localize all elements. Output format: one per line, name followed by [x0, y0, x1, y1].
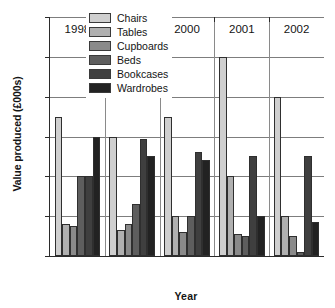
x-axis-tick-label: 2002 [267, 23, 327, 35]
legend-item-cupboards: Cupboards [89, 39, 168, 53]
x-axis-title: Year [49, 290, 323, 302]
legend-label: Bookcases [117, 69, 168, 80]
legend-label: Cupboards [117, 41, 168, 52]
legend-label: Beds [117, 55, 141, 66]
bar-chart: Value produced (£000s) 19981999200020012… [0, 0, 335, 308]
bar [219, 57, 227, 256]
legend-swatch-icon [89, 69, 111, 79]
bar [70, 226, 78, 256]
bar [242, 236, 250, 256]
bar [304, 156, 312, 256]
bar [77, 176, 85, 256]
legend-item-tables: Tables [89, 25, 168, 39]
legend-item-bookcases: Bookcases [89, 67, 168, 81]
bar [281, 216, 289, 256]
bar [257, 216, 265, 256]
x-axis-tick-mark [269, 17, 270, 22]
bar [85, 176, 93, 256]
group-separator [214, 17, 215, 256]
bar [195, 152, 203, 256]
bar [140, 139, 148, 257]
legend: ChairsTablesCupboardsBedsBookcasesWardro… [86, 9, 172, 98]
legend-label: Tables [117, 27, 147, 38]
bar [132, 204, 140, 256]
bar [147, 156, 155, 256]
bar [93, 137, 101, 257]
legend-label: Wardrobes [117, 83, 168, 94]
bar [62, 224, 70, 256]
legend-item-chairs: Chairs [89, 11, 168, 25]
bar [202, 160, 210, 256]
legend-label: Chairs [117, 13, 147, 24]
bar-group [269, 17, 324, 256]
legend-swatch-icon [89, 55, 111, 65]
legend-swatch-icon [89, 41, 111, 51]
bar [249, 156, 257, 256]
y-axis-title: Value produced (£000s) [11, 34, 23, 234]
x-axis-tick-label: 2001 [212, 23, 272, 35]
bar [274, 97, 282, 256]
legend-item-beds: Beds [89, 53, 168, 67]
legend-swatch-icon [89, 83, 111, 93]
legend-item-wardrobes: Wardrobes [89, 81, 168, 95]
bar [125, 224, 133, 256]
bar [227, 176, 235, 256]
bar [172, 216, 180, 256]
x-axis-tick-mark [214, 17, 215, 22]
bar [179, 232, 187, 256]
bar [109, 137, 117, 257]
bar [117, 230, 125, 256]
bar [187, 216, 195, 256]
bar-group [214, 17, 269, 256]
bar [55, 117, 63, 256]
bar [234, 234, 242, 256]
bar [164, 117, 172, 256]
bar [312, 222, 320, 256]
legend-swatch-icon [89, 13, 111, 23]
bar [297, 252, 305, 256]
group-separator [269, 17, 270, 256]
bar [289, 236, 297, 256]
legend-swatch-icon [89, 27, 111, 37]
y-axis-tick-mark [45, 256, 50, 257]
